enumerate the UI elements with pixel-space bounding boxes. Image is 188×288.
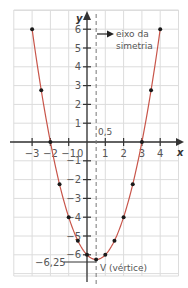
data-point: [158, 27, 162, 31]
y-axis-arrow-icon: [83, 11, 91, 20]
y-tick-label: 4: [75, 61, 81, 72]
origin-label: 0: [77, 148, 83, 159]
data-point: [76, 239, 80, 243]
data-point: [85, 253, 89, 257]
x-tick-label: 1: [102, 148, 108, 159]
x-axis-label: x: [176, 147, 184, 158]
y-tick-label: 5: [75, 43, 81, 54]
y-tick-label: −3: [66, 193, 81, 204]
data-point: [94, 258, 98, 262]
y-tick-label: −6: [66, 249, 81, 260]
data-point: [39, 88, 43, 92]
data-point: [131, 182, 135, 186]
y-axis-label: y: [76, 13, 83, 24]
x-tick-label: 2: [120, 148, 126, 159]
arrow-right-icon: [107, 31, 114, 38]
data-point: [122, 215, 126, 219]
x-tick-label: 4: [157, 148, 163, 159]
y-tick-label: 1: [75, 118, 81, 129]
x-tick-label: −3: [25, 148, 40, 159]
data-point: [149, 88, 153, 92]
data-point: [30, 27, 34, 31]
parabola-chart: −3−2−11234654321−1−2−3−4−5−6 y x eixo da…: [0, 0, 188, 288]
data-point: [103, 253, 107, 257]
y-tick-label: −2: [66, 174, 81, 185]
x-tick-label: −2: [43, 148, 58, 159]
half-label: 0,5: [98, 127, 112, 137]
y-tick-label: 2: [75, 99, 81, 110]
x-axis-arrow-icon: [176, 138, 184, 146]
data-point: [67, 215, 71, 219]
y-tick-label: 3: [75, 80, 81, 91]
data-point: [140, 140, 144, 144]
data-point: [58, 182, 62, 186]
symmetry-label-line1: eixo da: [116, 29, 149, 39]
symmetry-label-line2: simetria: [116, 41, 153, 51]
vertex-y-label: −6,25: [35, 257, 66, 268]
data-point: [48, 140, 52, 144]
vertex-label: V (vértice): [100, 263, 147, 273]
axes: [10, 11, 184, 282]
data-point: [112, 239, 116, 243]
y-tick-label: 6: [75, 24, 81, 35]
